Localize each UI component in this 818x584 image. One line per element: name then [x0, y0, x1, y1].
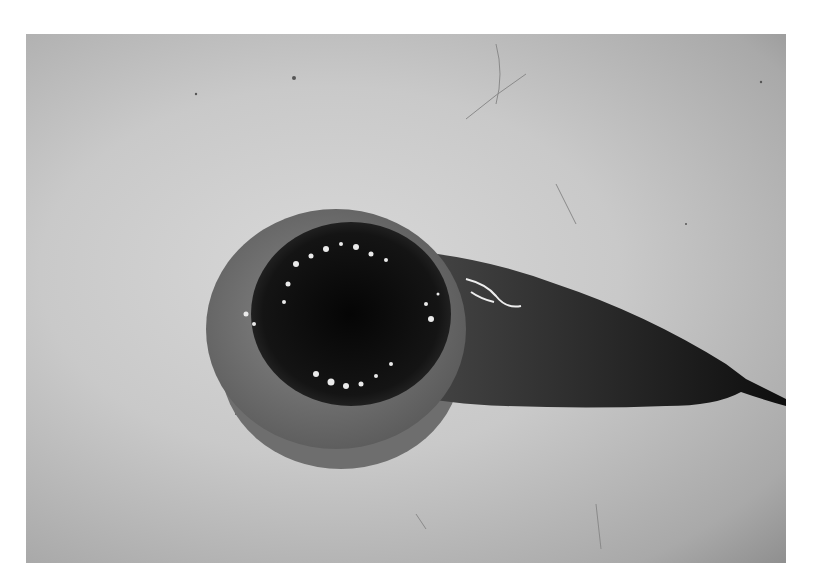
specimen-illustration [26, 34, 786, 563]
specimen-photo [26, 34, 786, 563]
specimen-core [251, 222, 451, 406]
